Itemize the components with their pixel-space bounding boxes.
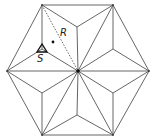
radius-R-dotted (42, 5, 78, 71)
point-dot (52, 41, 55, 44)
label-R: R (60, 28, 67, 38)
label-S: S (37, 54, 43, 64)
hexagon-diagram: R S (0, 0, 155, 140)
center-dot (76, 69, 80, 73)
diagram-canvas (0, 0, 155, 140)
